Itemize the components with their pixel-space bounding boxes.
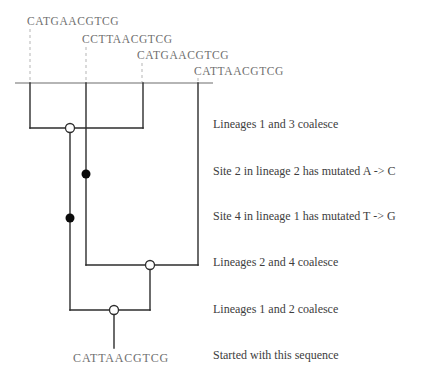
- mutation-nodes: [66, 170, 91, 223]
- event-label-lineages-2-4-coalesce: Lineages 2 and 4 coalesce: [213, 255, 338, 270]
- coalescent-tree-figure: CATGAACGTCG CCTTAACGTCG CATGAACGTCG CATT…: [0, 0, 429, 384]
- mutation-node-lineage-2-site-2: [82, 170, 91, 179]
- coalescence-node-1-3: [66, 124, 75, 133]
- event-label-mutation-lineage-1: Site 4 in lineage 1 has mutated T -> G: [213, 209, 396, 224]
- tip-sequence-2: CCTTAACGTCG: [82, 33, 173, 46]
- coalescence-nodes: [66, 124, 155, 315]
- tip-sequence-3: CATGAACGTCG: [137, 49, 229, 62]
- mutation-node-lineage-1-site-4: [66, 214, 75, 223]
- coalescence-node-1-2: [110, 306, 119, 315]
- coalescence-node-2-4: [146, 261, 155, 270]
- event-label-lineages-1-3-coalesce: Lineages 1 and 3 coalesce: [213, 117, 338, 132]
- root-sequence: CATTAACGTCG: [73, 351, 169, 365]
- tip-sequence-1: CATGAACGTCG: [27, 15, 119, 28]
- event-label-lineages-1-2-coalesce: Lineages 1 and 2 coalesce: [213, 302, 338, 317]
- tip-sequence-4: CATTAACGTCG: [194, 65, 284, 78]
- event-label-mutation-lineage-2: Site 2 in lineage 2 has mutated A -> C: [213, 164, 395, 179]
- event-label-started-sequence: Started with this sequence: [213, 348, 339, 363]
